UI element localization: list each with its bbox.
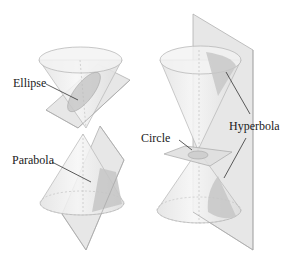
conic-sections-diagram: Ellipse Parabola Circle Hyperbola [0,0,290,268]
circle-section [188,151,208,159]
parabola-cone-group [40,126,124,250]
circle-label: Circle [141,132,170,144]
parabola-label: Parabola [12,154,54,166]
hyperbola-label: Hyperbola [229,120,280,132]
ellipse-cone-rim [39,47,122,73]
ellipse-label: Ellipse [13,77,46,89]
